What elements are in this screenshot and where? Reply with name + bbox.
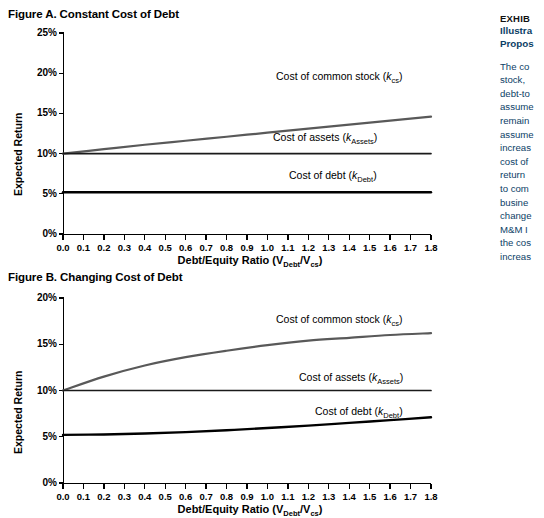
xlabel-main: Debt/Equity Ratio (V xyxy=(178,254,284,266)
exhibit-body-line: the cos xyxy=(500,236,544,250)
symbol-sub: Assets xyxy=(351,137,374,146)
exhibit-body-line: busine xyxy=(500,196,544,210)
exhibit-title-line-1: Illustra xyxy=(500,25,544,38)
exhibit-eyebrow: EXHIB xyxy=(500,12,544,25)
figure-a-label-cost-of-debt: Cost of debt (kDebt) xyxy=(289,169,377,184)
figure-a-series-lines xyxy=(0,0,492,262)
label-end: ) xyxy=(399,70,403,82)
label-end: ) xyxy=(374,131,378,143)
exhibit-body-line: assume xyxy=(500,100,544,114)
exhibit-body-line: M&M I xyxy=(500,223,544,237)
exhibit-sidebar: EXHIB Illustra Propos The costock, debt-… xyxy=(500,12,544,264)
figure-a-x-axis-label: Debt/Equity Ratio (VDebt/Vcs) xyxy=(120,254,380,269)
figure-b-chart: Figure B. Changing Cost of Debt Expected… xyxy=(0,268,492,510)
symbol-sub: Debt xyxy=(383,411,399,420)
symbol-sub: Debt xyxy=(357,175,373,184)
exhibit-body-line: assume xyxy=(500,128,544,142)
label-end: ) xyxy=(400,371,404,383)
label-end: ) xyxy=(399,313,403,325)
xlabel-sub-cs: cs xyxy=(310,509,318,518)
symbol-sub: cs xyxy=(392,319,400,328)
exhibit-body-line: increas xyxy=(500,250,544,264)
exhibit-body-line: cost of xyxy=(500,155,544,169)
label-text: Cost of assets ( xyxy=(299,371,372,383)
label-text: Cost of assets ( xyxy=(273,131,346,143)
xlabel-main: Debt/Equity Ratio (V xyxy=(178,503,284,515)
label-end: ) xyxy=(399,405,403,417)
xlabel-end: ) xyxy=(319,254,323,266)
exhibit-body-line: return xyxy=(500,168,544,182)
figure-a-label-cost-of-common-stock: Cost of common stock (kcs) xyxy=(276,70,403,85)
xlabel-mid: /V xyxy=(300,503,310,515)
exhibit-body-line: stock, xyxy=(500,73,544,87)
exhibit-body-line: remain xyxy=(500,114,544,128)
figure-b-series-lines xyxy=(0,268,492,510)
figure-b-label-cost-of-debt: Cost of debt (kDebt) xyxy=(315,405,403,420)
exhibit-body-line: debt-to xyxy=(500,87,544,101)
label-text: Cost of common stock ( xyxy=(276,313,386,325)
figure-a-chart: Figure A. Constant Cost of Debt Expected… xyxy=(0,0,492,262)
symbol-sub: cs xyxy=(392,76,400,85)
exhibit-body-line: The co xyxy=(500,60,544,74)
xlabel-sub-debt: Debt xyxy=(283,509,300,518)
exhibit-title-line-2: Propos xyxy=(500,38,544,51)
exhibit-body-text: The costock, debt-toassumeremainassumein… xyxy=(500,60,544,264)
xlabel-mid: /V xyxy=(300,254,310,266)
exhibit-body-line: to com xyxy=(500,182,544,196)
exhibit-body-line: change xyxy=(500,209,544,223)
label-end: ) xyxy=(373,169,377,181)
xlabel-end: ) xyxy=(319,503,323,515)
label-text: Cost of debt ( xyxy=(315,405,378,417)
figure-b-label-cost-of-assets: Cost of assets (kAssets) xyxy=(299,371,403,386)
exhibit-body-line: increas xyxy=(500,141,544,155)
figure-b-x-axis-label: Debt/Equity Ratio (VDebt/Vcs) xyxy=(120,503,380,518)
figure-b-label-cost-of-common-stock: Cost of common stock (kcs) xyxy=(276,313,403,328)
label-text: Cost of debt ( xyxy=(289,169,352,181)
figure-a-label-cost-of-assets: Cost of assets (kAssets) xyxy=(273,131,377,146)
symbol-sub: Assets xyxy=(377,377,400,386)
label-text: Cost of common stock ( xyxy=(276,70,386,82)
